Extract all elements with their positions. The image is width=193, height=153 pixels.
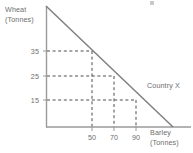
x-axis-title-name: Barley <box>150 128 179 138</box>
y-tick-label-15: 15 <box>19 96 39 105</box>
y-tick-label-25: 25 <box>19 72 39 81</box>
series-label-country-x: Country X <box>147 81 180 90</box>
ppf-line-country-x <box>46 6 173 127</box>
y-axis-title: Wheat (Tonnes) <box>5 5 34 24</box>
ppf-chart: Wheat (Tonnes) Barley (Tonnes) 35 25 15 … <box>0 0 193 153</box>
x-axis-title: Barley (Tonnes) <box>150 128 179 147</box>
x-tick-label-70: 70 <box>104 133 124 142</box>
x-tick-label-50: 50 <box>82 133 102 142</box>
x-axis-title-unit: (Tonnes) <box>150 138 179 148</box>
y-axis-title-name: Wheat <box>5 5 34 15</box>
y-tick-label-35: 35 <box>19 47 39 56</box>
y-axis-title-unit: (Tonnes) <box>5 15 34 25</box>
x-tick-label-90: 90 <box>126 133 146 142</box>
